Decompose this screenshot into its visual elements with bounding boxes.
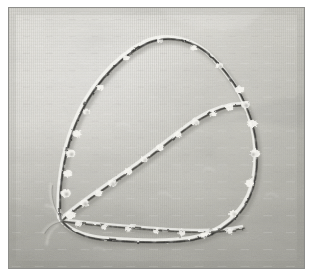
photo-border-rule	[8, 7, 305, 269]
photo-frame: Close-up photograph of hand stitching on…	[0, 0, 314, 277]
photo-render-surface	[9, 8, 304, 268]
photograph-embroidered-leaf	[9, 8, 304, 268]
film-grain	[9, 8, 304, 268]
